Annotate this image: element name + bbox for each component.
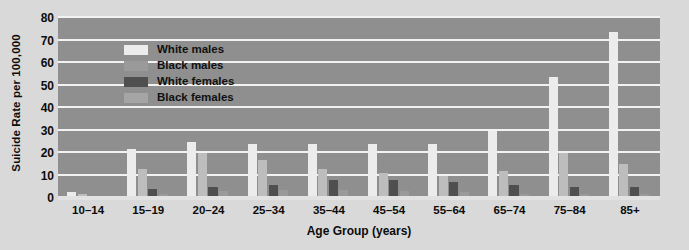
- bar-white-males-55-64: [428, 144, 437, 198]
- bar-white-males-45-54: [368, 144, 377, 198]
- y-axis-tick-label: 10: [22, 170, 54, 182]
- bar-white-males-85+: [609, 32, 618, 199]
- x-axis-tick-label: 25–34: [239, 204, 299, 216]
- bar-group: [609, 18, 651, 198]
- bar-white-males-15-19: [127, 149, 136, 199]
- y-axis-tick-label: 80: [22, 12, 54, 24]
- x-axis-tick-labels: 10–1415–1920–2425–3435–4445–5455–6465–74…: [58, 204, 660, 220]
- bar-black-males-20-24: [198, 153, 207, 198]
- axis-baseline: [58, 196, 660, 200]
- suicide-rate-bar-chart: Suicide Rate per 100,000 010203040506070…: [0, 0, 689, 250]
- legend-item-label: White females: [157, 75, 234, 88]
- y-axis-tick-label: 60: [22, 57, 54, 69]
- legend-swatch-white-males: [124, 45, 148, 55]
- y-axis-tick-label: 50: [22, 80, 54, 92]
- bar-group: [67, 18, 109, 198]
- legend-swatch-black-males: [124, 61, 148, 71]
- x-axis-tick-label: 10–14: [58, 204, 118, 216]
- y-axis-tick-label: 0: [22, 192, 54, 204]
- bar-black-males-65-74: [499, 171, 508, 198]
- x-axis-tick-label: 65–74: [479, 204, 539, 216]
- legend-swatch-white-females: [124, 77, 148, 87]
- bar-group: [428, 18, 470, 198]
- plot-area: White malesBlack malesWhite femalesBlack…: [58, 18, 660, 198]
- x-axis-tick-label: 55–64: [419, 204, 479, 216]
- legend-item[interactable]: White males: [124, 42, 314, 57]
- bar-group: [368, 18, 410, 198]
- bar-white-males-75-84: [549, 77, 558, 199]
- y-axis-tick-label: 30: [22, 125, 54, 137]
- bar-white-males-35-44: [308, 144, 317, 198]
- x-axis-tick-label: 20–24: [178, 204, 238, 216]
- y-axis-tick-labels: 01020304050607080: [22, 11, 54, 203]
- bar-group: [488, 18, 530, 198]
- bar-black-males-35-44: [318, 169, 327, 198]
- x-axis-tick-label: 15–19: [118, 204, 178, 216]
- legend-item[interactable]: Black females: [124, 90, 314, 105]
- legend: White malesBlack malesWhite femalesBlack…: [124, 42, 314, 106]
- x-axis-tick-label: 35–44: [299, 204, 359, 216]
- legend-item-label: White males: [157, 43, 224, 56]
- x-axis-tick-label: 85+: [600, 204, 660, 216]
- bar-black-males-15-19: [138, 169, 147, 198]
- y-axis-tick-label: 70: [22, 35, 54, 47]
- bar-white-males-65-74: [488, 131, 497, 199]
- legend-swatch-black-females: [124, 93, 148, 103]
- bar-black-males-25-34: [258, 160, 267, 198]
- bar-white-males-25-34: [248, 144, 257, 198]
- bar-black-males-85+: [619, 164, 628, 198]
- y-axis-tick-label: 40: [22, 102, 54, 114]
- x-axis-tick-label: 75–84: [540, 204, 600, 216]
- y-axis-tick-label: 20: [22, 147, 54, 159]
- bar-white-males-20-24: [187, 142, 196, 198]
- x-axis-title: Age Group (years): [58, 224, 660, 238]
- bar-black-males-75-84: [559, 153, 568, 198]
- legend-item[interactable]: White females: [124, 74, 314, 89]
- bar-group: [308, 18, 350, 198]
- x-axis-tick-label: 45–54: [359, 204, 419, 216]
- legend-item-label: Black females: [157, 91, 234, 104]
- bar-group: [549, 18, 591, 198]
- bar-black-males-45-54: [379, 173, 388, 198]
- legend-item[interactable]: Black males: [124, 58, 314, 73]
- y-axis-title: Suicide Rate per 100,000: [10, 8, 22, 198]
- legend-item-label: Black males: [157, 59, 224, 72]
- bar-black-males-55-64: [439, 176, 448, 199]
